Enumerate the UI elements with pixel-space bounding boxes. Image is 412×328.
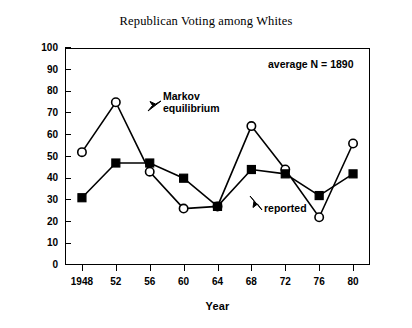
x-tick-label: 80 — [333, 276, 373, 287]
y-tick-mark — [65, 199, 71, 200]
annotation-reported: reported — [264, 202, 307, 214]
x-tick-mark — [319, 265, 320, 271]
x-tick-mark — [116, 265, 117, 271]
x-tick-mark — [353, 265, 354, 271]
y-tick-label: 90 — [8, 65, 58, 75]
y-tick-mark — [65, 243, 71, 244]
chart-figure: Republican Voting among Whites Whites Vo… — [0, 0, 412, 328]
y-tick-mark — [65, 134, 71, 135]
y-tick-label: 80 — [8, 86, 58, 96]
x-tick-mark — [150, 265, 151, 271]
y-tick-mark — [65, 69, 71, 70]
y-tick-label: 60 — [8, 130, 58, 140]
y-tick-mark — [65, 221, 71, 222]
x-tick-mark — [184, 265, 185, 271]
y-tick-label: 50 — [8, 152, 58, 162]
x-tick-mark — [251, 265, 252, 271]
x-tick-mark — [285, 265, 286, 271]
y-tick-mark — [65, 178, 71, 179]
annotation-average-n: average N = 1890 — [268, 58, 354, 70]
y-tick-label: 40 — [8, 173, 58, 183]
annotation-markov-equilibrium: Markov equilibrium — [163, 90, 220, 115]
y-tick-label: 10 — [8, 238, 58, 248]
plot-area — [65, 48, 370, 265]
y-tick-label: 70 — [8, 108, 58, 118]
x-tick-mark — [82, 265, 83, 271]
y-tick-label: 0 — [8, 260, 58, 270]
y-tick-mark — [65, 112, 71, 113]
x-axis-label: Year — [65, 300, 370, 312]
y-tick-label: 30 — [8, 195, 58, 205]
y-tick-mark — [65, 91, 71, 92]
y-tick-mark — [65, 264, 71, 265]
y-tick-mark — [65, 47, 71, 48]
y-tick-label: 100 — [8, 43, 58, 53]
chart-title: Republican Voting among Whites — [0, 14, 412, 29]
y-tick-label: 20 — [8, 217, 58, 227]
x-tick-mark — [218, 265, 219, 271]
y-tick-mark — [65, 156, 71, 157]
